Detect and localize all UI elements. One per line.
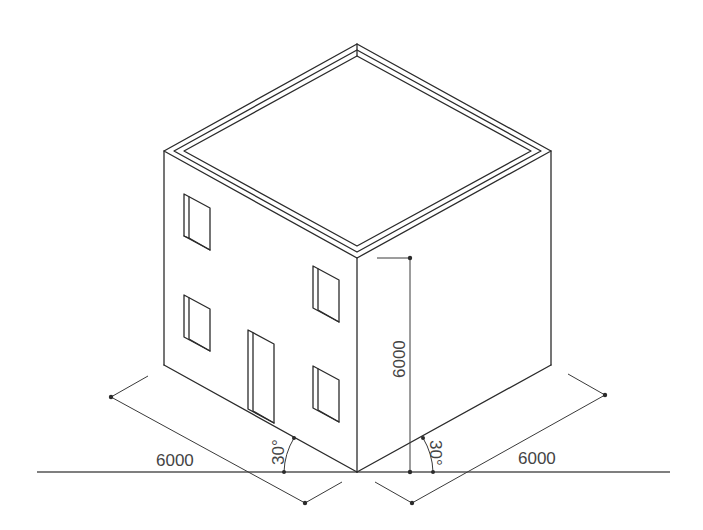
left-angle-marker: 30° (269, 436, 296, 474)
right-angle-label: 30° (426, 440, 445, 466)
left-angle-label: 30° (269, 439, 288, 465)
window (184, 295, 210, 351)
right-width-label: 6000 (518, 449, 556, 468)
right-angle-marker: 30° (421, 436, 445, 474)
door (248, 330, 274, 423)
roof (164, 44, 551, 258)
window (184, 194, 210, 250)
windows (184, 194, 339, 422)
left-width-label: 6000 (156, 451, 194, 470)
walls (164, 151, 551, 472)
window (313, 266, 339, 322)
isometric-drawing: 6000 30° 6000 30° 6000 (0, 0, 703, 530)
window (313, 366, 339, 422)
height-label: 6000 (390, 340, 409, 378)
height-dimension: 6000 (377, 256, 412, 474)
left-width-dimension: 6000 (109, 376, 342, 505)
